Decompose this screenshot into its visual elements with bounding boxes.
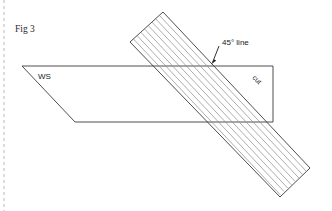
cut-label: cut (251, 74, 263, 86)
cut-band-outline (130, 12, 310, 197)
angle-callout-group: 45° line (211, 38, 249, 65)
technical-diagram: Fig 3 WS cut 45° line (0, 0, 332, 211)
figure-caption: Fig 3 (15, 24, 35, 34)
angle-callout-leader (213, 46, 220, 63)
cut-band-group (130, 12, 310, 197)
angle-line-label: 45° line (222, 38, 249, 47)
workpiece-label: WS (38, 72, 51, 81)
figure-container: Fig 3 WS cut 45° line (0, 0, 332, 211)
